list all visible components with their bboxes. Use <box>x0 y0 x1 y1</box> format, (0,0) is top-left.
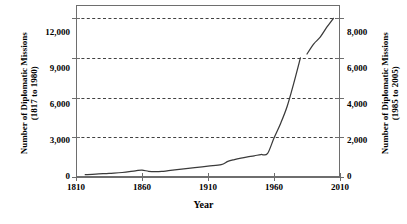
y2-axis-title-line1: Number of Diplomatic Missions <box>380 19 391 167</box>
y-axis-title-line2: (1817 to 1980) <box>29 19 40 167</box>
x-tick-label: 2010 <box>320 183 360 192</box>
data-series <box>85 18 333 174</box>
y2-axis-title-text: Number of Diplomatic Missions <box>380 19 391 167</box>
y-axis-title-sub: (1817 to 1980) <box>29 19 40 167</box>
x-tick-label: 1960 <box>254 183 294 192</box>
y-axis-title-text: Number of Diplomatic Missions <box>19 19 30 167</box>
x-tick-label: 1810 <box>56 183 96 192</box>
y-tick-label: 0 <box>22 172 70 181</box>
y2-axis-title-line2: (1985 to 2005) <box>390 19 401 167</box>
y-axis-title-line1: Number of Diplomatic Missions <box>19 19 30 167</box>
axis-ticks <box>72 19 344 182</box>
chart-figure: 12,000 9,000 6,000 3,000 0 8,000 6,000 4… <box>0 0 407 224</box>
gridlines <box>76 19 340 138</box>
y2-tick-label: 0 <box>347 172 395 181</box>
x-axis-title: Year <box>0 199 407 210</box>
x-tick-label: 1910 <box>188 183 228 192</box>
y2-axis-title-sub: (1985 to 2005) <box>390 19 401 167</box>
x-tick-label: 1860 <box>122 183 162 192</box>
